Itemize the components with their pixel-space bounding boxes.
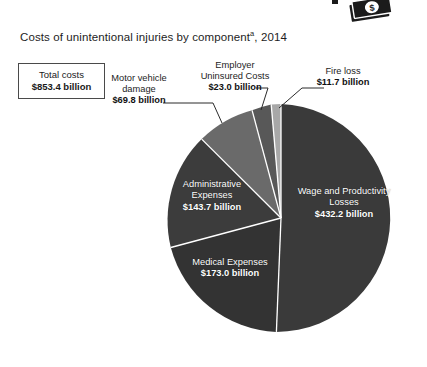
slice-label-admin-line2: Expenses (160, 190, 264, 201)
slice-label-admin-line1: Administrative (160, 179, 264, 190)
callout-motor-vehicle-line2: damage (93, 84, 185, 95)
callout-motor-vehicle-damage: Motor vehicle damage $69.8 billion (93, 73, 185, 106)
callout-fire-loss-value: $11.7 billion (300, 77, 386, 88)
slice-label-administrative-expenses: Administrative Expenses $143.7 billion (160, 179, 264, 213)
slice-label-wage-line2: Losses (290, 197, 398, 208)
slice-label-wage-value: $432.2 billion (290, 209, 398, 220)
callout-employer-line2: Uninsured Costs (183, 71, 287, 82)
callout-employer-uninsured-costs: Employer Uninsured Costs $23.0 billion (183, 60, 287, 93)
callout-fire-loss: Fire loss $11.7 billion (300, 66, 386, 88)
callout-motor-vehicle-value: $69.8 billion (93, 95, 185, 106)
slice-label-admin-value: $143.7 billion (160, 202, 264, 213)
callout-fire-loss-line1: Fire loss (300, 66, 386, 77)
callout-employer-line1: Employer (183, 60, 287, 71)
slice-label-wage-line1: Wage and Productivity (290, 186, 398, 197)
slice-label-medical-value: $173.0 billion (174, 268, 286, 279)
chart-canvas: $ Costs of unintentional injuries by com… (0, 0, 427, 367)
slice-label-medical-expenses: Medical Expenses $173.0 billion (174, 257, 286, 280)
callout-motor-vehicle-line1: Motor vehicle (93, 73, 185, 84)
slice-label-medical-line1: Medical Expenses (174, 257, 286, 268)
slice-label-wage-and-productivity-losses: Wage and Productivity Losses $432.2 bill… (290, 186, 398, 220)
callout-employer-value: $23.0 billion (183, 82, 287, 93)
